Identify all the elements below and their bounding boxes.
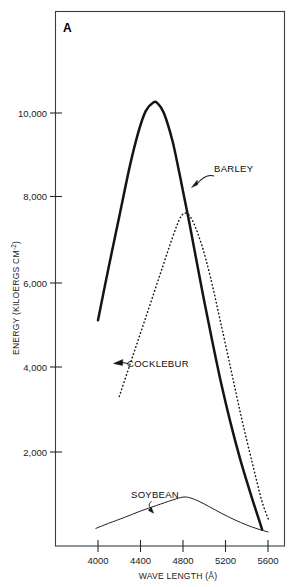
y-tick-label-4000: 4,000	[23, 362, 47, 373]
y-tick-label-2000: 2,000	[23, 447, 47, 458]
plot-border	[56, 12, 285, 547]
barley-label: BARLEY	[214, 163, 254, 174]
x-tick-label-5600: 5600	[257, 555, 278, 566]
svg-text:ENERGY (KILOERGS CM-2): ENERGY (KILOERGS CM-2)	[10, 241, 21, 355]
x-tick-label-4000: 4000	[87, 555, 108, 566]
x-axis-title: WAVE LENGTH (Å)	[139, 571, 217, 581]
x-tick-label-4800: 4800	[172, 555, 193, 566]
x-tick-label-4400: 4400	[130, 555, 151, 566]
spectral-energy-chart: A 10,000 8,000 6,000 4,000 2,000 ENERGY …	[0, 0, 299, 587]
y-axis-tick-labels: 10,000 8,000 6,000 4,000 2,000	[18, 108, 47, 458]
cocklebur-label: COCKLEBUR	[127, 358, 189, 369]
soybean-label: SOYBEAN	[131, 489, 179, 500]
x-tick-label-5200: 5200	[215, 555, 236, 566]
x-axis-tick-labels: 4000 4400 4800 5200 5600	[87, 555, 278, 566]
panel-label: A	[63, 21, 72, 35]
y-tick-label-6000: 6,000	[23, 278, 47, 289]
y-axis-title-close: )	[11, 241, 21, 244]
figure-panel-a: A 10,000 8,000 6,000 4,000 2,000 ENERGY …	[0, 0, 299, 587]
plot-frame	[56, 12, 285, 547]
y-tick-label-8000: 8,000	[23, 191, 47, 202]
y-axis-title: ENERGY (KILOERGS CM-2)	[10, 241, 21, 355]
y-tick-label-10000: 10,000	[18, 108, 47, 119]
y-axis-title-main: ENERGY (KILOERGS CM	[11, 250, 21, 355]
